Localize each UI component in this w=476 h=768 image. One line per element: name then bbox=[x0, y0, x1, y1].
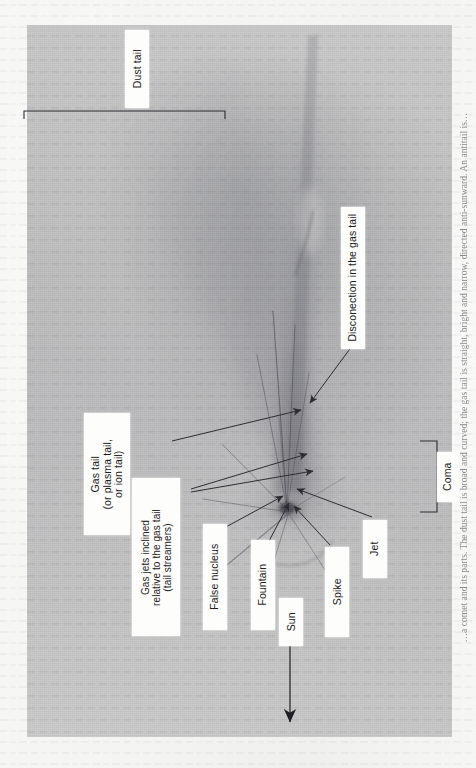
leader-spike bbox=[294, 506, 330, 545]
label-gas-jets-text: Gas jets inclined relative to the gas ta… bbox=[140, 509, 173, 606]
label-jet-text: Jet bbox=[369, 542, 381, 556]
label-gas-tail: Gas tail (or plasma tail, or ion tail) bbox=[84, 413, 130, 535]
leader-disconnection bbox=[310, 346, 352, 403]
label-sun-text: Sun bbox=[285, 613, 297, 632]
label-dust-tail: Dust tail bbox=[125, 30, 149, 108]
label-gas-jets: Gas jets inclined relative to the gas ta… bbox=[132, 478, 180, 636]
figure-caption-text: …a comet and its parts. The dust tail is… bbox=[459, 113, 470, 643]
annotation-overlay bbox=[0, 0, 476, 768]
label-spike-text: Spike bbox=[331, 579, 343, 606]
label-disconnection: Disconection in the gas tail bbox=[341, 207, 365, 349]
scanned-page: Dust tail Disconection in the gas tail G… bbox=[0, 0, 476, 768]
label-false-nucleus-text: False nucleus bbox=[209, 544, 221, 610]
leader-fountain bbox=[268, 503, 289, 543]
dust-tail-bracket bbox=[24, 111, 225, 119]
label-fountain: Fountain bbox=[251, 540, 275, 630]
leader-jet bbox=[297, 489, 372, 517]
label-disconnection-text: Disconection in the gas tail bbox=[347, 214, 359, 342]
label-false-nucleus: False nucleus bbox=[203, 524, 227, 630]
figure-caption: …a comet and its parts. The dust tail is… bbox=[453, 0, 475, 768]
label-fountain-text: Fountain bbox=[257, 564, 269, 606]
label-spike: Spike bbox=[325, 547, 349, 637]
leader-gas-tail bbox=[172, 410, 301, 441]
label-sun: Sun bbox=[279, 598, 303, 646]
leader-gas-jets-a bbox=[191, 454, 307, 489]
leader-false-nucleus bbox=[224, 496, 283, 528]
leader-gas-jets-b bbox=[191, 471, 313, 492]
coma-bracket bbox=[420, 441, 437, 512]
label-gas-tail-text: Gas tail (or plasma tail, or ion tail) bbox=[90, 439, 125, 509]
label-jet: Jet bbox=[363, 520, 387, 578]
label-dust-tail-text: Dust tail bbox=[131, 50, 143, 89]
